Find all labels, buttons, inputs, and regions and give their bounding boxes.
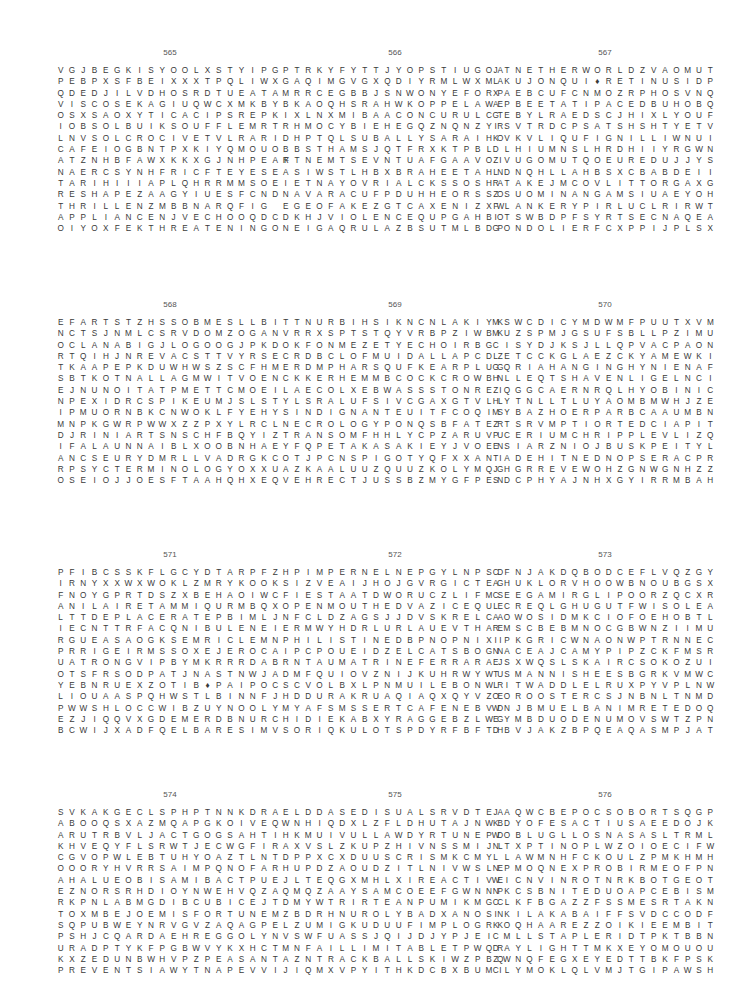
grid-row: IRNYXXWXWOKLZMRYKOOK	[55, 575, 281, 586]
grid-row: MNPKGWRPWWXZZPXYLRCL	[55, 416, 281, 427]
grid-letter: R	[580, 223, 591, 234]
grid-row: NECROLOGYPONQSBFATER	[280, 416, 506, 427]
grid-letter: I	[558, 223, 569, 234]
grid-letter: H	[705, 475, 716, 486]
grid-letter: Y	[359, 965, 370, 976]
grid-letter: B	[55, 725, 66, 736]
grid-letter: E	[179, 223, 190, 234]
grid-row: DMYWTRIRTEANPUMIKMGC	[280, 894, 506, 905]
grid-row: ZQGGCAERNRQLHYOBINIC	[490, 382, 716, 393]
grid-letter: M	[258, 725, 269, 736]
puzzle-number: 566	[280, 48, 510, 57]
grid-letter: H	[705, 965, 716, 976]
grid-letter: A	[535, 725, 546, 736]
grid-row: CRDBCLOFMUIDALLAPCDZ	[280, 348, 506, 359]
grid-row: KOQHAAREZZOIKIEEMBIT	[490, 917, 716, 928]
grid-row: RTAKEJMCOVLITTORGAXG	[490, 175, 716, 186]
grid-row: HLLEQTSHAVENLIGELNCI	[490, 370, 716, 381]
grid-letter: M	[659, 725, 670, 736]
grid-letter: S	[134, 965, 145, 976]
grid-row: RTQIHJNREVACSTTVYRSE	[55, 348, 281, 359]
grid-row: VEHRECTJUSSBZMYGFPEN	[280, 472, 506, 483]
grid-row: TTNURBIHSIKNCNLAKIYK	[280, 314, 506, 325]
grid-row: LIOUAASPQHWSTLBINNFJ	[55, 688, 281, 699]
grid-letter: C	[490, 965, 501, 976]
grid-letter: P	[659, 965, 670, 976]
grid-letter: E	[291, 475, 302, 486]
grid-row: YEBNRUEXZOTIB♦PAIPOC	[55, 677, 281, 688]
grid-letter: S	[693, 223, 704, 234]
grid-row: ISVTRDCPSATSHSHTYETV	[490, 118, 716, 129]
grid-row: URADPTYKFPGBWVYKXHCT	[55, 940, 281, 951]
puzzle-number: 567	[490, 48, 720, 57]
grid-letter: J	[100, 725, 111, 736]
grid-letter: A	[558, 475, 569, 486]
grid-letter: Y	[626, 475, 637, 486]
grid-letter: I	[66, 223, 77, 234]
grid-letter: M	[603, 965, 614, 976]
grid-row: RESHAPEZAAGYIUESFCND	[55, 186, 292, 197]
grid-letter: B	[682, 475, 693, 486]
grid-row: DKHJVIOLENCEQUPGAHBO	[280, 209, 506, 220]
grid-row: THRILLENZMBBNARQFIG	[55, 198, 292, 209]
grid-letter: B	[472, 223, 483, 234]
grid-row: JIQMXVPYITHKDCBXBUMI	[280, 962, 506, 973]
grid-row: AHUKLORVHOOWBNOUBGSX	[490, 575, 716, 586]
grid-row: JHGRREVEWOHZGNWGNHZZ	[490, 461, 716, 472]
grid-row: IETNAYOVRIALCKSSOSHA	[280, 175, 506, 186]
grid-letter: I	[89, 725, 100, 736]
grid-letter: Z	[416, 475, 427, 486]
grid-row: TKAAPEPKDUWHWSZSCFHM	[55, 359, 281, 370]
grid-row: GQRIAHANGINGHYNIENAF	[490, 359, 716, 370]
grid-letter: H	[535, 475, 546, 486]
grid-letter: X	[603, 475, 614, 486]
grid-row: AXVSLZKUPZHIVNSSMIJL	[280, 838, 506, 849]
grid-letter: J	[659, 223, 670, 234]
grid-letter: T	[348, 475, 359, 486]
grid-row: WICNVINROTNRKBOTGEOT	[490, 872, 716, 883]
grid-letter: I	[648, 965, 659, 976]
grid-letter: S	[66, 475, 77, 486]
grid-letter: A	[191, 223, 202, 234]
grid-row: SINDIGNANTEUITFCOQIS	[280, 404, 506, 415]
grid-letter: V	[280, 475, 291, 486]
word-search-puzzle: 576JAQWCBEPOCSOBORTSQGPKDYOFESACTIUSAEED…	[490, 790, 720, 980]
grid-letter: M	[671, 475, 682, 486]
puzzle-number: 570	[490, 300, 720, 309]
grid-row: CAFEIOGBNTPXKIYQMOUO	[55, 141, 292, 152]
grid-row: PWWSHLOCCWIBZUYNOOLY	[55, 700, 281, 711]
grid-letter: S	[382, 475, 393, 486]
grid-letter: Q	[569, 965, 580, 976]
grid-letter: L	[359, 725, 370, 736]
grid-row: HUPDZAOUDZITLNIVWSLE	[280, 860, 506, 871]
grid-letter: T	[202, 223, 213, 234]
grid-row: RMSCBEBMNOCGBWNZIIMU	[490, 620, 716, 631]
grid-row: BBSTHAMSJQTFRXKTPBL	[280, 141, 506, 152]
grid-letter: S	[416, 223, 427, 234]
grid-letter: L	[580, 965, 591, 976]
puzzle-number: 572	[280, 550, 510, 559]
grid-letter: E	[224, 725, 235, 736]
grid-row: NAERCSYNHFRICFTEYESE	[55, 164, 292, 175]
grid-letter: N	[580, 475, 591, 486]
grid-row: ATZNHBFAWXKKXGJNHPEAF	[55, 152, 292, 163]
grid-row: ESXWQSLSKAIRCSOKOZUI	[490, 654, 716, 665]
grid-row: KVKVLIQUFIGNILLIWNUI	[490, 130, 716, 141]
grid-row: TOXMBEJOEMISFORTUNEM	[55, 906, 281, 917]
grid-letter: P	[348, 965, 359, 976]
grid-row: PREVENTSIAWYTNAPEVVI	[55, 962, 281, 973]
grid-row: RGUEASAOGKSEMRICLEMN	[55, 632, 281, 643]
grid-row: JTNETHERWORLDZVAOMUT	[490, 62, 716, 73]
grid-row: LDNQHLLAHBSXCBABDEII	[490, 164, 716, 175]
grid-letter: F	[449, 725, 460, 736]
grid-letter: Q	[336, 223, 347, 234]
grid-row: PHILISTINEDBPNOPNIXI	[280, 632, 506, 643]
word-search-puzzle: 566PTRKYFYTTJYOPSTIUGOAGAQIMGVGXQDIYRMLW…	[280, 48, 510, 238]
grid-letter: K	[336, 725, 347, 736]
grid-row: APPLIANCENJVECHOOQDC	[55, 209, 292, 220]
grid-letter: D	[490, 725, 501, 736]
grid-row: FIESTAATDWORUCZLIFMS	[280, 587, 506, 598]
grid-letter: R	[648, 475, 659, 486]
grid-letter: R	[66, 965, 77, 976]
puzzle-number: 569	[280, 300, 510, 309]
